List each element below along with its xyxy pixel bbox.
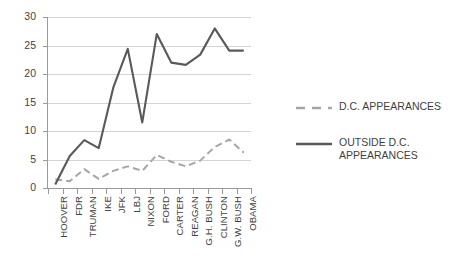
x-label-clinton: CLINTON (219, 196, 229, 238)
x-label-truman: TRUMAN (88, 196, 98, 237)
x-label-lbj: LBJ (132, 196, 142, 213)
x-label-fdr: FDR (74, 196, 84, 216)
x-tick-14 (251, 188, 252, 194)
legend-item-dc-appearances[interactable]: D.C. APPEARANCES (296, 100, 441, 113)
legend-label: D.C. APPEARANCES (339, 100, 441, 113)
x-label-hoover: HOOVER (59, 196, 69, 238)
series-line-1 (55, 28, 244, 184)
x-tick-5 (121, 188, 122, 194)
y-tick-label-30: 30 (24, 11, 36, 22)
series-container (48, 17, 251, 188)
x-label-reagan: REAGAN (190, 196, 200, 237)
x-label-jfk: JFK (117, 196, 127, 213)
x-label-ike: IKE (103, 196, 113, 212)
legend-item-outside-dc-appearances[interactable]: OUTSIDE D.C. APPEARANCES (296, 136, 418, 162)
y-tick-label-25: 25 (24, 40, 36, 51)
x-label-g-w-bush: G.W. BUSH (233, 196, 243, 247)
x-tick-4 (106, 188, 107, 194)
y-tick-label-15: 15 (24, 97, 36, 108)
x-tick-0 (48, 188, 49, 194)
x-tick-11 (208, 188, 209, 194)
x-tick-8 (164, 188, 165, 194)
x-tick-10 (193, 188, 194, 194)
x-label-nixon: NIXON (146, 196, 156, 227)
x-tick-3 (92, 188, 93, 194)
y-axis: 051015202530 (0, 0, 44, 269)
series-line-0 (55, 140, 244, 182)
x-tick-12 (222, 188, 223, 194)
x-label-g-h-bush: G.H. BUSH (204, 196, 214, 245)
x-tick-2 (77, 188, 78, 194)
plot-area (48, 17, 251, 188)
line-chart: 051015202530 HOOVERFDRTRUMANIKEJFKLBJNIX… (0, 0, 450, 269)
x-tick-13 (237, 188, 238, 194)
legend-swatch-dashed-icon (296, 102, 332, 114)
legend-swatch-solid-icon (296, 138, 332, 150)
x-tick-9 (179, 188, 180, 194)
x-axis-labels: HOOVERFDRTRUMANIKEJFKLBJNIXONFORDCARTERR… (48, 196, 251, 269)
y-tick-label-10: 10 (24, 125, 36, 136)
x-tick-1 (63, 188, 64, 194)
y-tick-label-0: 0 (30, 182, 36, 193)
y-tick-label-20: 20 (24, 68, 36, 79)
x-tick-7 (150, 188, 151, 194)
y-tick-label-5: 5 (30, 154, 36, 165)
x-label-ford: FORD (161, 196, 171, 223)
legend-label: OUTSIDE D.C. APPEARANCES (339, 136, 418, 162)
x-tick-6 (135, 188, 136, 194)
x-label-carter: CARTER (175, 196, 185, 236)
x-axis-ticks (48, 188, 251, 194)
x-label-obama: OBAMA (248, 196, 258, 231)
